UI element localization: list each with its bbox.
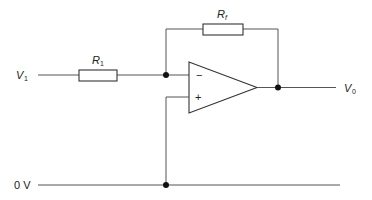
svg-text:1: 1 <box>100 60 104 67</box>
input-voltage-label: V 1 <box>16 69 28 82</box>
inverting-amplifier-diagram: − + V 1 R 1 R f V 0 0 V <box>0 0 372 200</box>
inverting-input-sign: − <box>196 69 202 81</box>
svg-text:f: f <box>225 14 228 21</box>
output-node <box>275 85 281 91</box>
r1-label: R 1 <box>92 54 104 67</box>
svg-text:1: 1 <box>24 75 28 82</box>
non-inverting-ground-wire <box>166 97 189 185</box>
rf-label: R f <box>217 8 228 21</box>
output-voltage-label: V 0 <box>344 82 356 95</box>
non-inverting-input-sign: + <box>195 91 201 103</box>
ground-node <box>163 182 169 188</box>
svg-text:0: 0 <box>352 88 356 95</box>
feedback-wire-right <box>243 29 278 87</box>
svg-text:R: R <box>92 54 100 66</box>
resistor-rf <box>203 24 243 35</box>
ground-label: 0 V <box>14 179 31 191</box>
svg-text:R: R <box>217 8 225 20</box>
summing-junction-node <box>163 72 169 78</box>
resistor-r1 <box>79 70 117 81</box>
